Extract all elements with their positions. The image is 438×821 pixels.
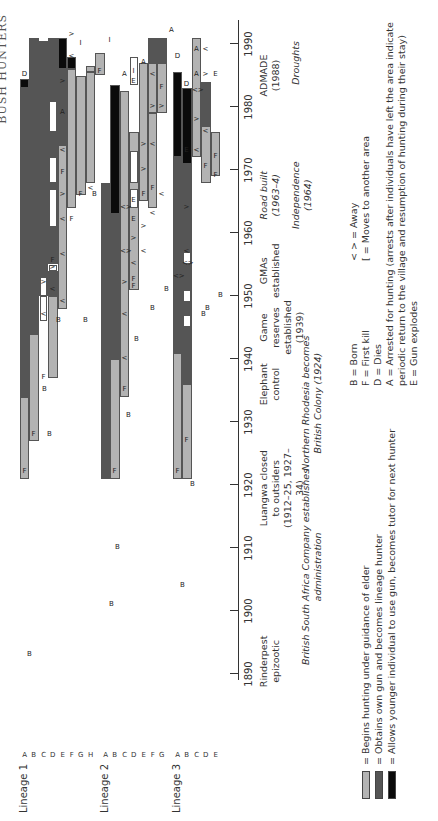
legend-swatch-light [362,771,370,799]
event-marker: F [182,436,191,445]
axis-tick-label: 1890 [243,654,254,694]
event-marker: F [139,190,148,199]
birth-marker: B [107,600,116,609]
away-block [49,101,56,133]
career-segment [101,183,110,479]
event-marker: A [120,71,129,80]
event-marker: < [120,354,129,363]
row-letter: D [48,751,58,761]
birth-marker: B [188,480,197,489]
row-letter: G [76,751,86,761]
axis-tick [230,43,238,44]
legend-label: = Obtains own gun and becomes lineage hu… [373,534,384,765]
career-segment [86,66,95,72]
axis-tick [230,232,238,233]
career-segment [20,88,29,397]
axis-tick [230,421,238,422]
event-marker: < [120,310,129,319]
event-marker: E [211,71,220,80]
event-marker: F [120,386,129,395]
event-marker: D [173,52,182,61]
symbol-key-line: D = Dies [372,344,384,386]
axis-tick-label: 1950 [243,276,254,316]
event-marker: < [58,250,67,259]
event-marker: F [20,467,29,476]
axis-tick-label: 1900 [243,591,254,631]
event-marker: > [192,115,201,124]
axis-tick-label: 1940 [243,339,254,379]
event-marker: E [182,146,191,155]
career-segment [192,38,201,158]
row-letter: D [129,751,139,761]
row-letter: G [157,751,167,761]
event-marker: A [58,108,67,117]
row-letter: E [210,751,220,761]
event-marker: F [201,162,210,171]
event-marker: > [157,102,166,111]
symbol-key-line: F = First kill [360,330,372,386]
event-marker: < [148,140,157,149]
career-segment [173,157,182,352]
career-segment [67,69,76,208]
event-marker: F [58,168,67,177]
axis-tick [230,358,238,359]
legend-label: = Allows younger individual to use gun, … [386,429,397,765]
event-marker: < [192,146,201,155]
away-block [49,157,56,182]
event-marker: < [48,285,57,294]
symbol-key-line: periodic return to the village and resum… [396,35,408,386]
symbol-key-line: [ = Moves to another area [360,136,372,261]
career-segment [58,38,67,70]
career-segment [110,85,119,214]
symbol-key-line: < > = Away [348,203,360,261]
event-marker: > [201,71,210,80]
birth-marker: B [25,650,34,659]
symbol-key-line: B = Born [348,343,360,386]
away-block [49,189,56,227]
axis-line [238,20,239,680]
birth-marker: B [45,430,54,439]
event-marker: <> [192,86,201,95]
event-marker: < [148,71,157,80]
symbol-key-line: E = Gun explodes [408,301,420,386]
event-marker: > [58,190,67,199]
axis-tick-label: 1920 [243,465,254,505]
event-marker: I [76,39,85,48]
birth-marker: B [81,316,90,325]
event-marker: < [67,52,76,61]
historical-event: Road built(1963–4) [258,150,282,240]
event-marker: A [167,26,176,35]
rotated-page: BUSH HUNTERS Lineage 1ABCDEFGHLineage 2A… [0,0,438,821]
row-letter: B [110,751,120,761]
event-marker: F [157,83,166,92]
event-marker: F [95,67,104,76]
event-marker: F [129,275,138,284]
career-segment [139,63,148,202]
event-marker: < [148,209,157,218]
axis-tick-label: 1930 [243,402,254,442]
event-marker: > [182,203,191,212]
event-marker: F [39,373,48,382]
event-marker: E [129,197,138,206]
career-segment [148,38,157,63]
event-marker: D [20,71,29,80]
event-marker: <> [182,260,191,269]
event-marker: A [192,71,201,80]
event-marker: I [105,36,114,45]
historical-event: Droughts [290,18,302,108]
axis-tick-label: 1910 [243,528,254,568]
symbol-key-line: A = Arrested for hunting (arrests after … [384,22,396,386]
axis-tick-label: 1970 [243,150,254,190]
axis-tick [230,106,238,107]
event-marker: < [139,247,148,256]
row-letter: D [201,751,211,761]
event-marker: I [129,67,138,76]
birth-marker: B [178,581,187,590]
career-segment [110,214,119,359]
event-marker: < [58,146,67,155]
birth-marker: B [90,190,99,199]
birth-marker: B [54,316,63,325]
event-marker: <> [120,247,129,256]
event-marker: > [120,278,129,287]
event-marker: > [148,102,157,111]
